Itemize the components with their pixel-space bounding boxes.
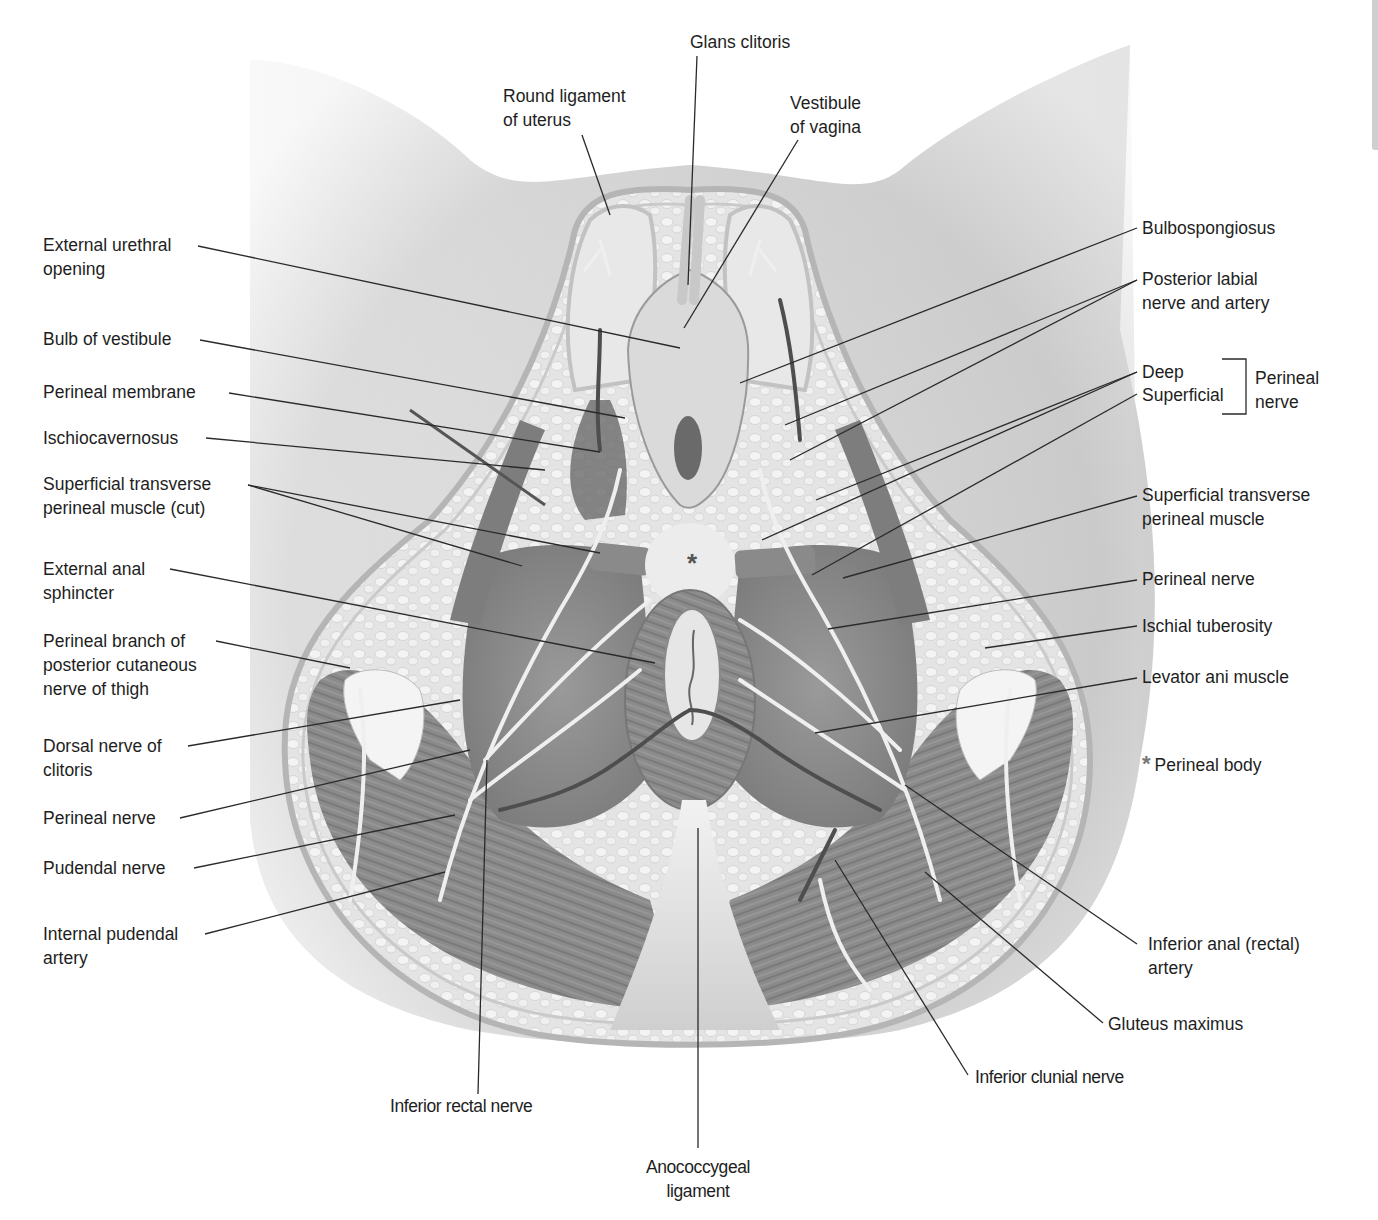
label-levator-ani: Levator ani muscle xyxy=(1142,665,1289,689)
label-superficial-transverse-perineal-cut: Superficial transverse perineal muscle (… xyxy=(43,472,211,520)
label-ischial-tuberosity: Ischial tuberosity xyxy=(1142,614,1272,638)
label-perineal-nerve-group: Perineal nerve xyxy=(1255,366,1319,414)
label-inferior-clunial-nerve: Inferior clunial nerve xyxy=(975,1065,1124,1089)
label-dorsal-nerve-of-clitoris: Dorsal nerve of clitoris xyxy=(43,734,162,782)
label-glans-clitoris: Glans clitoris xyxy=(690,30,790,54)
label-anococcygeal-ligament: Anococcygeal ligament xyxy=(630,1155,766,1203)
perineum-illustration: * xyxy=(0,0,1378,1220)
page-edge-tab xyxy=(1372,0,1378,150)
label-deep: Deep xyxy=(1142,360,1184,384)
label-pudendal-nerve: Pudendal nerve xyxy=(43,856,166,880)
anatomy-figure: * xyxy=(0,0,1378,1220)
label-inferior-rectal-nerve: Inferior rectal nerve xyxy=(390,1094,532,1118)
label-gluteus-maximus: Gluteus maximus xyxy=(1108,1012,1243,1036)
legend-text: Perineal body xyxy=(1155,755,1262,775)
label-perineal-nerve-right: Perineal nerve xyxy=(1142,567,1255,591)
label-bulb-of-vestibule: Bulb of vestibule xyxy=(43,327,171,351)
label-bulbospongiosus: Bulbospongiosus xyxy=(1142,216,1275,240)
label-vestibule-of-vagina: Vestibule of vagina xyxy=(790,91,861,139)
perineal-body-star: * xyxy=(687,548,698,578)
label-superficial-transverse-perineal: Superficial transverse perineal muscle xyxy=(1142,483,1310,531)
label-perineal-branch-posterior-cutaneous: Perineal branch of posterior cutaneous n… xyxy=(43,629,197,701)
label-round-ligament: Round ligament of uterus xyxy=(503,84,626,132)
label-internal-pudendal-artery: Internal pudendal artery xyxy=(43,922,178,970)
label-perineal-membrane: Perineal membrane xyxy=(43,380,196,404)
perineal-nerve-bracket xyxy=(1222,359,1246,414)
label-ischiocavernosus: Ischiocavernosus xyxy=(43,426,178,450)
label-inferior-anal-artery: Inferior anal (rectal) artery xyxy=(1148,932,1300,980)
star-icon: * xyxy=(1142,751,1151,776)
label-perineal-nerve-left: Perineal nerve xyxy=(43,806,156,830)
legend-perineal-body: *Perineal body xyxy=(1142,752,1262,777)
label-superficial: Superficial xyxy=(1142,383,1224,407)
label-external-anal-sphincter: External anal sphincter xyxy=(43,557,145,605)
label-posterior-labial: Posterior labial nerve and artery xyxy=(1142,267,1269,315)
label-external-urethral-opening: External urethral opening xyxy=(43,233,171,281)
